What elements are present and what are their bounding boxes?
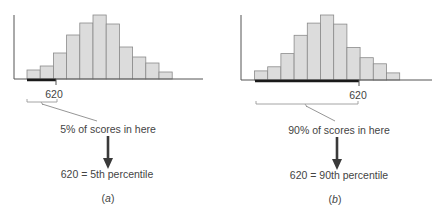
histogram-bar: [80, 23, 93, 79]
histogram-bar: [268, 67, 281, 80]
leader-line-a: [42, 104, 97, 121]
arrow-down-icon: [332, 137, 342, 170]
histogram-bar: [255, 71, 268, 80]
histogram-bar: [321, 15, 334, 80]
histogram-bar: [106, 24, 119, 79]
leader-line-b: [306, 106, 335, 121]
histogram-bar: [360, 58, 373, 80]
region-text-a: 5% of scores in here: [60, 123, 156, 135]
tick-label-a: 620: [45, 88, 63, 100]
histogram-bar: [307, 23, 320, 80]
histogram-bar: [133, 57, 146, 79]
panel-a: 620 5% of scores in here 620 = 5th perce…: [14, 15, 203, 204]
histogram-bar: [347, 48, 360, 81]
result-text-b: 620 = 90th percentile: [290, 169, 389, 181]
histogram-bar: [93, 15, 106, 79]
caption-b: (b): [329, 193, 342, 205]
histogram-bar: [159, 72, 172, 79]
histogram-bar: [373, 64, 386, 80]
histogram-a: [27, 15, 172, 79]
region-text-b: 90% of scores in here: [288, 124, 390, 136]
panel-b: 620 90% of scores in here 620 = 90th per…: [241, 15, 432, 205]
histogram-bar: [294, 35, 307, 80]
caption-a: (a): [102, 192, 115, 204]
histogram-b: [255, 15, 400, 80]
histogram-bar: [40, 66, 53, 79]
histogram-bar: [387, 73, 400, 80]
histogram-bar: [67, 35, 80, 79]
histogram-bar: [146, 63, 159, 79]
result-text-a: 620 = 5th percentile: [61, 168, 154, 180]
arrow-down-icon: [103, 136, 113, 169]
histogram-bar: [334, 24, 347, 80]
percentile-diagram: 620 5% of scores in here 620 = 5th perce…: [0, 0, 440, 217]
histogram-bar: [27, 70, 40, 79]
histogram-bar: [119, 47, 132, 79]
histogram-bar: [53, 53, 66, 79]
tick-label-b: 620: [349, 89, 367, 101]
histogram-bar: [281, 54, 294, 80]
